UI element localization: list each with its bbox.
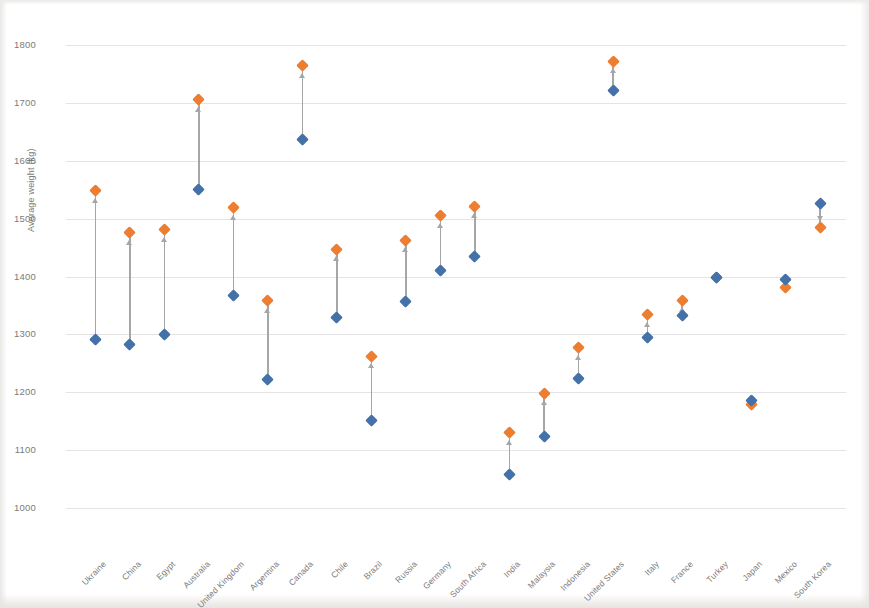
arrow-head-icon (230, 215, 236, 220)
y-axis-tick-label: 1700 (0, 97, 36, 108)
marker-end[interactable] (400, 234, 413, 247)
gridline (66, 45, 846, 46)
marker-end[interactable] (227, 201, 240, 214)
marker-end[interactable] (365, 350, 378, 363)
y-axis-tick-label: 1300 (0, 328, 36, 339)
marker-end[interactable] (262, 294, 275, 307)
marker-end[interactable] (676, 294, 689, 307)
arrow-head-icon (126, 240, 132, 245)
gridline (66, 392, 846, 393)
marker-start[interactable] (158, 329, 171, 342)
marker-start[interactable] (710, 271, 723, 284)
page-edge-top (0, 0, 869, 5)
x-axis-tick-label: Germany (421, 559, 453, 591)
marker-start[interactable] (227, 289, 240, 302)
page-edge-left (0, 0, 7, 608)
arrow-head-icon (299, 73, 305, 78)
marker-end[interactable] (434, 209, 447, 222)
marker-end[interactable] (607, 55, 620, 68)
x-axis-tick-label: Russia (393, 559, 419, 585)
marker-start[interactable] (365, 414, 378, 427)
marker-start[interactable] (538, 430, 551, 443)
marker-end[interactable] (123, 226, 136, 239)
connector-line (95, 191, 97, 340)
y-axis-tick-label: 1000 (0, 502, 36, 513)
marker-start[interactable] (607, 84, 620, 97)
x-axis-tick-label: Malaysia (526, 559, 557, 590)
arrow-head-icon (402, 247, 408, 252)
arrow-head-icon (368, 363, 374, 368)
arrow-head-icon (92, 198, 98, 203)
marker-start[interactable] (123, 338, 136, 351)
x-axis-tick-label: Japan (740, 559, 764, 583)
y-axis-tick-label: 1600 (0, 155, 36, 166)
x-axis-tick-label: France (669, 559, 695, 585)
gridline (66, 219, 846, 220)
marker-end[interactable] (641, 308, 654, 321)
marker-start[interactable] (814, 197, 827, 210)
page-edge-bottom (0, 594, 869, 608)
x-axis-tick-label: Brazil (362, 559, 385, 582)
y-axis-tick-label: 1100 (0, 444, 36, 455)
marker-start[interactable] (193, 183, 206, 196)
marker-start[interactable] (400, 296, 413, 309)
x-axis-tick-label: Indonesia (558, 559, 592, 593)
marker-start[interactable] (331, 311, 344, 324)
x-axis-tick-label: Mexico (772, 559, 799, 586)
y-axis-tick-label: 1200 (0, 386, 36, 397)
arrow-head-icon (264, 308, 270, 313)
arrow-head-icon (437, 223, 443, 228)
marker-end[interactable] (193, 94, 206, 107)
marker-end[interactable] (503, 426, 516, 439)
connector-line (233, 208, 235, 295)
x-axis-tick-label: Chile (329, 559, 350, 580)
gridline (66, 103, 846, 104)
x-axis-tick-label: South Africa (448, 559, 488, 599)
x-axis-tick-label: Australia (181, 559, 212, 590)
arrow-head-icon (471, 213, 477, 218)
arrow-head-icon (333, 256, 339, 261)
x-axis-tick-label: India (502, 559, 522, 579)
gridline (66, 277, 846, 278)
x-axis-tick-label: Egypt (155, 559, 178, 582)
marker-start[interactable] (262, 373, 275, 386)
gridline (66, 508, 846, 509)
marker-start[interactable] (641, 331, 654, 344)
gridline (66, 161, 846, 162)
marker-end[interactable] (331, 243, 344, 256)
marker-start[interactable] (572, 372, 585, 385)
gridline (66, 334, 846, 335)
marker-end[interactable] (469, 200, 482, 213)
marker-end[interactable] (296, 59, 309, 72)
marker-start[interactable] (434, 264, 447, 277)
marker-end[interactable] (572, 341, 585, 354)
marker-start[interactable] (503, 468, 516, 481)
arrow-head-icon (817, 216, 823, 221)
arrow-head-icon (161, 237, 167, 242)
marker-end[interactable] (814, 222, 827, 235)
x-axis-tick-label: Canada (287, 559, 316, 588)
page-edge-right (860, 0, 869, 608)
arrow-head-icon (644, 322, 650, 327)
x-axis-tick-label: China (120, 559, 143, 582)
plot-area: 180017001600150014001300120011001000Ukra… (66, 45, 846, 508)
arrow-head-icon (195, 107, 201, 112)
marker-end[interactable] (158, 223, 171, 236)
marker-end[interactable] (89, 184, 102, 197)
arrow-head-icon (575, 355, 581, 360)
y-axis-tick-label: 1800 (0, 39, 36, 50)
marker-end[interactable] (538, 387, 551, 400)
x-axis-tick-label: Ukraine (80, 559, 108, 587)
connector-line (198, 100, 200, 190)
gridline (66, 450, 846, 451)
y-axis-tick-label: 1500 (0, 213, 36, 224)
x-axis-tick-label: Italy (642, 559, 660, 577)
connector-line (164, 230, 166, 335)
connector-line (129, 233, 131, 345)
y-axis-tick-label: 1400 (0, 271, 36, 282)
marker-start[interactable] (469, 250, 482, 263)
marker-start[interactable] (296, 134, 309, 147)
x-axis-tick-label: Turkey (704, 559, 730, 585)
arrow-head-icon (506, 440, 512, 445)
arrow-head-icon (541, 400, 547, 405)
